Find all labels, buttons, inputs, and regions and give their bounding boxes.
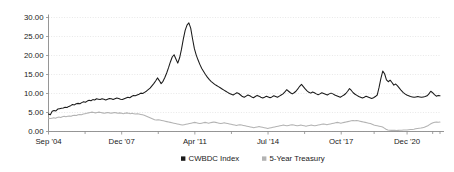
legend-marker-5-year-treasury [262, 156, 266, 160]
x-tick-label: Apr '11 [183, 137, 207, 146]
series-line-5-year-treasury [49, 112, 441, 130]
legend-label-5-year-treasury: 5-Year Treasury [270, 154, 325, 163]
y-tick-label: 0.00 [28, 127, 44, 136]
y-tick-label: 5.00 [28, 108, 44, 117]
y-axis-tick-labels: 0.005.0010.0015.0020.0025.0030.00 [24, 13, 44, 136]
legend-label-cwbdc-index: CWBDC Index [189, 154, 240, 163]
y-tick-label: 10.00 [24, 89, 44, 98]
legend-marker-cwbdc-index [181, 156, 185, 160]
chart-container: 0.005.0010.0015.0020.0025.0030.00 Sep '0… [0, 0, 454, 172]
data-series [49, 23, 441, 131]
y-tick-label: 25.00 [24, 32, 44, 41]
x-tick-label: Sep '04 [35, 137, 62, 146]
x-axis-tick-labels: Sep '04Dec '07Apr '11Jul '14Oct '17Dec '… [35, 132, 440, 147]
chart-legend: CWBDC Index5-Year Treasury [181, 154, 325, 163]
x-tick-label: Jul '14 [257, 137, 280, 146]
x-tick-label: Dec '20 [394, 137, 421, 146]
grid-lines [49, 18, 441, 132]
y-tick-label: 20.00 [24, 51, 44, 60]
y-tick-label: 15.00 [24, 70, 44, 79]
x-tick-label: Dec '07 [109, 137, 135, 146]
line-chart: 0.005.0010.0015.0020.0025.0030.00 Sep '0… [0, 0, 454, 172]
x-tick-label: Oct '17 [329, 137, 353, 146]
y-tick-label: 30.00 [24, 13, 44, 22]
